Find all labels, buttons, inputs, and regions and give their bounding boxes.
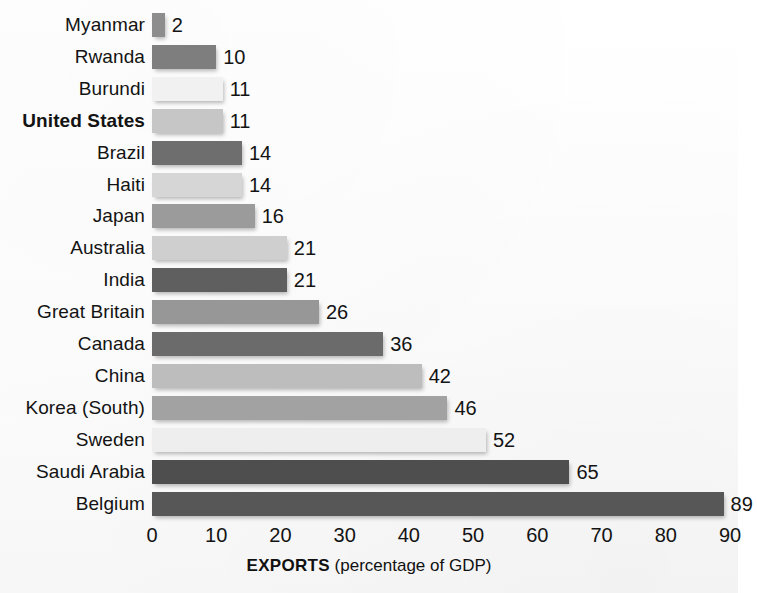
x-tick-label: 40 — [379, 524, 439, 547]
bar-wrapper — [152, 268, 287, 292]
bar — [152, 236, 287, 260]
category-label: Myanmar — [0, 10, 145, 40]
bar-wrapper — [152, 141, 242, 165]
x-axis-title-strong: EXPORTS — [247, 556, 330, 575]
bar-row: Great Britain26 — [0, 297, 738, 327]
bar-wrapper — [152, 364, 422, 388]
x-tick-label: 10 — [186, 524, 246, 547]
x-tick-label: 0 — [122, 524, 182, 547]
bar-value-label: 14 — [249, 138, 271, 168]
x-tick-label: 60 — [507, 524, 567, 547]
bar-wrapper — [152, 13, 165, 37]
bar — [152, 77, 223, 101]
category-label: China — [0, 361, 145, 391]
bar — [152, 109, 223, 133]
bar-value-label: 36 — [390, 329, 412, 359]
bar-row: Myanmar2 — [0, 10, 738, 40]
bar — [152, 428, 486, 452]
category-label: Belgium — [0, 489, 145, 519]
bar — [152, 332, 383, 356]
bar-row: Brazil14 — [0, 138, 738, 168]
category-label: Sweden — [0, 425, 145, 455]
bar — [152, 13, 165, 37]
bar-row: Saudi Arabia65 — [0, 457, 738, 487]
bar-wrapper — [152, 428, 486, 452]
bar-wrapper — [152, 45, 216, 69]
x-tick-label: 30 — [315, 524, 375, 547]
x-tick-label: 20 — [250, 524, 310, 547]
bar-wrapper — [152, 460, 569, 484]
bar — [152, 45, 216, 69]
bar-row: Korea (South)46 — [0, 393, 738, 423]
category-label: Korea (South) — [0, 393, 145, 423]
category-label: Canada — [0, 329, 145, 359]
bar-value-label: 11 — [230, 106, 251, 136]
bar-wrapper — [152, 173, 242, 197]
x-axis-title: EXPORTS (percentage of GDP) — [0, 556, 738, 576]
bar-row: China42 — [0, 361, 738, 391]
bar-value-label: 26 — [326, 297, 348, 327]
bar-value-label: 10 — [223, 42, 245, 72]
bar-value-label: 46 — [454, 393, 476, 423]
category-label: India — [0, 265, 145, 295]
category-label: United States — [0, 106, 145, 136]
bar — [152, 460, 569, 484]
category-label: Haiti — [0, 170, 145, 200]
x-tick-label: 90 — [700, 524, 757, 547]
x-tick-label: 80 — [636, 524, 696, 547]
bar-row: Japan16 — [0, 201, 738, 231]
bar-wrapper — [152, 396, 447, 420]
bar-wrapper — [152, 300, 319, 324]
bar-wrapper — [152, 109, 223, 133]
bar-value-label: 52 — [493, 425, 515, 455]
bar — [152, 268, 287, 292]
bar-wrapper — [152, 332, 383, 356]
x-axis-title-rest: (percentage of GDP) — [330, 556, 492, 575]
bar-value-label: 14 — [249, 170, 271, 200]
bar-value-label: 16 — [262, 201, 284, 231]
bar — [152, 364, 422, 388]
bar-row: Sweden52 — [0, 425, 738, 455]
category-label: Japan — [0, 201, 145, 231]
bar — [152, 300, 319, 324]
category-label: Brazil — [0, 138, 145, 168]
bar-value-label: 89 — [731, 489, 753, 519]
bar-wrapper — [152, 204, 255, 228]
bar-wrapper — [152, 492, 724, 516]
bar-row: Australia21 — [0, 233, 738, 263]
bar — [152, 173, 242, 197]
bar-value-label: 21 — [294, 233, 316, 263]
category-label: Australia — [0, 233, 145, 263]
bar-row: Haiti14 — [0, 170, 738, 200]
x-tick-label: 50 — [443, 524, 503, 547]
bar-row: United States11 — [0, 106, 738, 136]
bar — [152, 396, 447, 420]
bar-value-label: 21 — [294, 265, 316, 295]
category-label: Saudi Arabia — [0, 457, 145, 487]
bar-row: Belgium89 — [0, 489, 738, 519]
bar — [152, 204, 255, 228]
bar-value-label: 65 — [576, 457, 598, 487]
bar — [152, 141, 242, 165]
category-label: Great Britain — [0, 297, 145, 327]
bar-wrapper — [152, 77, 223, 101]
bar-value-label: 42 — [429, 361, 451, 391]
bar-value-label: 11 — [230, 74, 251, 104]
category-label: Rwanda — [0, 42, 145, 72]
x-tick-label: 70 — [572, 524, 632, 547]
bar-value-label: 2 — [172, 10, 183, 40]
x-axis: 0102030405060708090 — [152, 520, 730, 522]
category-label: Burundi — [0, 74, 145, 104]
bar — [152, 492, 724, 516]
bar-row: Canada36 — [0, 329, 738, 359]
bar-wrapper — [152, 236, 287, 260]
bar-row: Rwanda10 — [0, 42, 738, 72]
bar-row: India21 — [0, 265, 738, 295]
bar-row: Burundi11 — [0, 74, 738, 104]
